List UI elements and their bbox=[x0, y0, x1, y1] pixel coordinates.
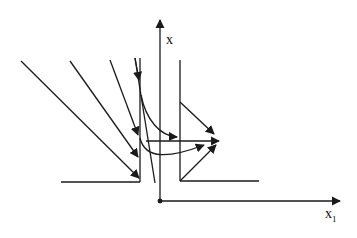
vertical-axis-label: x bbox=[166, 32, 173, 48]
origin-dot bbox=[158, 199, 162, 203]
horizontal-axis-label-text: x bbox=[325, 206, 332, 221]
phase-diagram bbox=[0, 0, 357, 238]
right-trajectory-lower bbox=[180, 145, 216, 181]
right-trajectory-upper bbox=[180, 102, 214, 134]
vertical-axis-label-text: x bbox=[166, 32, 173, 47]
trajectory-1 bbox=[21, 61, 139, 178]
steep-arrow bbox=[135, 58, 139, 80]
horizontal-axis-label-subscript: 1 bbox=[332, 214, 337, 224]
horizontal-axis-label: x1 bbox=[325, 206, 337, 222]
